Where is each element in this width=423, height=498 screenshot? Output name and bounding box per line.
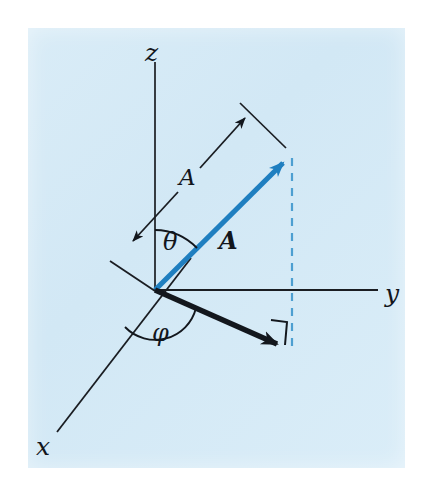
measure-tick-top [240,103,286,148]
magnitude-measure-arrow-upper [200,118,245,168]
phi-label: φ [152,321,169,345]
theta-label: θ [163,230,177,254]
vector-diagram-svg [0,0,423,498]
x-axis-line [57,258,191,432]
magnitude-A-label: A [179,166,196,189]
figure-root: z y x A A θ φ [0,0,423,498]
y-axis-label: y [385,281,399,306]
measure-tick-bottom [110,261,155,291]
vector-A-label: A [219,229,238,253]
x-axis-label: x [36,434,50,459]
z-axis-label: z [145,40,158,65]
